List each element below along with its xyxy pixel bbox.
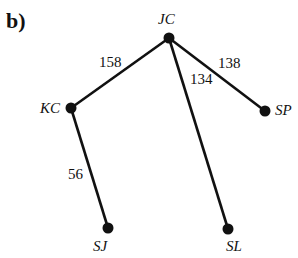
node-label-sj: SJ: [93, 239, 107, 254]
edge-weight-jc-kc: 158: [99, 55, 122, 70]
node-sj: [103, 223, 114, 234]
edge-weight-jc-sl: 134: [190, 72, 213, 87]
node-label-sl: SL: [226, 239, 242, 254]
node-label-kc: KC: [40, 101, 60, 116]
edge-jc-kc: [71, 38, 169, 108]
node-sp: [260, 106, 271, 117]
node-jc: [164, 33, 175, 44]
node-sl: [223, 224, 234, 235]
node-label-jc: JC: [158, 12, 175, 27]
node-label-sp: SP: [275, 103, 292, 118]
edge-weight-jc-sp: 138: [218, 56, 241, 71]
node-kc: [66, 103, 77, 114]
edge-jc-sp: [169, 38, 265, 111]
tree-diagram: [0, 0, 298, 258]
edge-weight-kc-sj: 56: [68, 167, 83, 182]
